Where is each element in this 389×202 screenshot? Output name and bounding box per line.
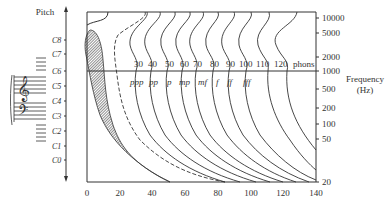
frequency-axis: 10000 5000 2000 1000 500 200 100 50 20 — [316, 13, 345, 187]
svg-text:60: 60 — [180, 59, 190, 69]
svg-text:C3: C3 — [52, 112, 61, 121]
svg-text:p: p — [166, 77, 172, 87]
svg-text:ff: ff — [227, 77, 234, 87]
svg-text:70: 70 — [193, 59, 203, 69]
arrow-down-icon — [64, 176, 68, 182]
svg-text:C0: C0 — [52, 156, 61, 165]
svg-text:40: 40 — [148, 59, 158, 69]
svg-text:50: 50 — [165, 59, 175, 69]
svg-text:10000: 10000 — [322, 13, 345, 23]
svg-text:phons: phons — [293, 59, 315, 69]
svg-text:80: 80 — [214, 188, 224, 198]
arrow-up-icon — [64, 6, 68, 12]
svg-text:ppp: ppp — [129, 77, 144, 87]
svg-text:60: 60 — [181, 188, 191, 198]
svg-text:0: 0 — [85, 188, 90, 198]
threshold-top-curve — [87, 12, 108, 25]
svg-text:110: 110 — [256, 59, 270, 69]
svg-text:20: 20 — [322, 177, 332, 187]
x-axis: 0 20 40 60 80 100 120 140 — [85, 188, 324, 198]
treble-clef-icon: 𝄞 — [17, 76, 30, 102]
svg-text:C2: C2 — [52, 127, 61, 136]
svg-text:1000: 1000 — [322, 66, 341, 76]
svg-text:100: 100 — [239, 59, 253, 69]
pitch-label: Pitch — [36, 7, 55, 17]
svg-text:C8: C8 — [52, 36, 61, 45]
pitch-ticks: C8 C7 C6 C5 C4 C3 C2 C1 C0 — [52, 36, 66, 165]
svg-text:140: 140 — [309, 188, 323, 198]
svg-text:pp: pp — [148, 77, 159, 87]
svg-text:C4: C4 — [52, 97, 61, 106]
shaded-region — [85, 30, 170, 182]
bass-clef-icon: 𝄢 — [18, 103, 28, 120]
plot-frame — [87, 12, 316, 182]
svg-text:120: 120 — [276, 188, 290, 198]
frequency-label: Frequency — [346, 74, 384, 84]
svg-text:500: 500 — [322, 84, 336, 94]
svg-text:2000: 2000 — [322, 52, 341, 62]
svg-text:mp: mp — [179, 77, 190, 87]
svg-text:100: 100 — [322, 119, 336, 129]
svg-text:200: 200 — [322, 103, 336, 113]
svg-text:120: 120 — [274, 59, 288, 69]
svg-text:30: 30 — [134, 59, 144, 69]
phon-curves — [130, 12, 316, 182]
dynamic-labels: ppp pp p mp mf f ff fff — [129, 77, 252, 87]
svg-text:C5: C5 — [52, 82, 61, 91]
svg-text:40: 40 — [148, 188, 158, 198]
svg-text:90: 90 — [226, 59, 236, 69]
svg-text:C7: C7 — [52, 50, 62, 59]
pitch-axis — [64, 6, 68, 182]
svg-text:50: 50 — [322, 134, 332, 144]
svg-text:5000: 5000 — [322, 28, 341, 38]
frequency-unit: (Hz) — [357, 85, 374, 95]
svg-text:mf: mf — [198, 77, 208, 87]
svg-text:f: f — [216, 77, 220, 87]
svg-text:80: 80 — [210, 59, 220, 69]
svg-text:C6: C6 — [52, 67, 61, 76]
svg-text:20: 20 — [116, 188, 126, 198]
svg-text:100: 100 — [244, 188, 258, 198]
equal-loudness-chart: 30 40 50 60 70 80 90 100 110 120 phons p… — [0, 0, 389, 202]
svg-text:C1: C1 — [52, 142, 61, 151]
svg-text:fff: fff — [243, 77, 252, 87]
